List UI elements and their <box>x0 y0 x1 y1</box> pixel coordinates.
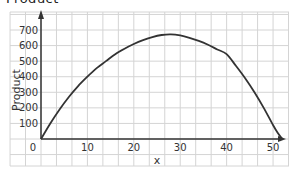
x-tick-label: 30 <box>174 142 187 153</box>
y-axis-label: Product <box>10 68 23 110</box>
x-tick-label: 10 <box>81 142 94 153</box>
y-tick-label: 600 <box>19 40 38 51</box>
grid-lines <box>10 12 289 166</box>
y-tick-label: 100 <box>19 118 38 129</box>
x-tick-label: 40 <box>220 142 233 153</box>
y-tick-label: 700 <box>19 25 38 36</box>
y-tick-label: 500 <box>19 56 38 67</box>
product-chart: 01020304050100200300400500600700 x Produ… <box>0 0 297 180</box>
x-tick-label: 0 <box>30 142 36 153</box>
x-tick-label: 20 <box>127 142 140 153</box>
x-tick-label: 50 <box>267 142 280 153</box>
x-axis-label: x <box>154 154 161 167</box>
